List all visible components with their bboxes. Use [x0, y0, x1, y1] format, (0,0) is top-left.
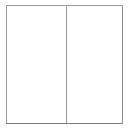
pane-left[interactable] — [7, 6, 66, 123]
pane-right[interactable] — [67, 6, 122, 123]
pane-left-content — [7, 6, 66, 123]
split-pane-frame — [6, 5, 123, 124]
split-pane-widget — [0, 0, 130, 131]
pane-right-content — [67, 6, 122, 123]
